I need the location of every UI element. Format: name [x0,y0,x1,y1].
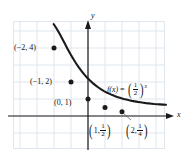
x-axis-label: x [177,110,181,119]
paren-close: ) [144,122,148,139]
fraction-denominator: 2 [133,89,139,97]
paren-open: ( [89,122,93,139]
graph-figure: y x (−2, 4) (−1, 2) (0, 1) ( 1 , 1 2 ) (… [0,0,191,157]
equals-sign: = [120,85,125,94]
data-point [69,80,74,85]
point-label-neg2: (−2, 4) [14,44,36,52]
fraction-one-quarter: 1 4 [137,123,143,138]
data-point [103,105,108,110]
point-label-one: ( 1 , 1 2 ) [88,122,112,139]
data-point [86,97,91,102]
fraction-denominator: 4 [137,130,143,138]
fraction-denominator: 2 [100,130,106,138]
paren-close: ) [140,81,144,98]
fraction-one-half: 1 2 [100,123,106,138]
exponent: x [144,83,146,89]
x-axis [8,113,174,119]
paren-open: ( [128,81,132,98]
fraction-numerator: 1 [100,123,106,130]
y-axis-label: y [91,11,95,20]
point-label-two: ( 2 , 1 4 ) [125,122,149,139]
point-label-neg1: (−1, 2) [30,78,52,86]
function-name: f(x) [107,85,118,94]
point-label-zero: (0, 1) [54,99,71,107]
paren-open: ( [126,122,130,139]
fraction-numerator: 1 [137,123,143,130]
function-equation: f(x) = ( 1 2 ) x [107,81,147,98]
paren-close: ) [107,122,111,139]
fraction-base: 1 2 [133,82,139,97]
data-point [52,46,57,51]
fraction-numerator: 1 [133,82,139,89]
